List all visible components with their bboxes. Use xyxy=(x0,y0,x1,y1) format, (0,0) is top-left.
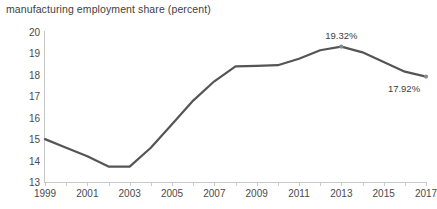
x-axis-tick xyxy=(45,182,46,186)
x-axis-tick xyxy=(341,182,342,186)
peak-value-label: 19.32% xyxy=(325,30,357,41)
x-axis-tick xyxy=(278,182,279,186)
x-axis-tick xyxy=(66,182,67,186)
x-axis-tick xyxy=(299,182,300,186)
y-axis-tick-label: 19 xyxy=(10,48,40,59)
y-axis-tick-label: 16 xyxy=(10,112,40,123)
x-axis-tick xyxy=(320,182,321,186)
end-marker xyxy=(424,74,428,78)
y-axis-tick-label: 18 xyxy=(10,69,40,80)
x-axis-tick-label: 2003 xyxy=(119,188,141,199)
x-axis-tick xyxy=(363,182,364,186)
y-axis-tick-label: 15 xyxy=(10,134,40,145)
x-axis-tick xyxy=(426,182,427,186)
y-axis-line xyxy=(44,31,45,183)
x-axis-tick xyxy=(214,182,215,186)
y-axis-tick-label: 14 xyxy=(10,155,40,166)
x-axis-tick xyxy=(257,182,258,186)
x-axis-tick-label: 2005 xyxy=(161,188,183,199)
x-axis-tick xyxy=(151,182,152,186)
y-axis-tick-labels: 1314151617181920 xyxy=(0,0,40,209)
x-axis-tick-label: 2011 xyxy=(288,188,310,199)
x-axis-tick xyxy=(172,182,173,186)
x-axis-tick-label: 2017 xyxy=(415,188,437,199)
peak-marker xyxy=(339,44,343,48)
x-axis-tick-label: 2001 xyxy=(76,188,98,199)
x-axis-tick-label: 2009 xyxy=(246,188,268,199)
x-axis-tick xyxy=(87,182,88,186)
x-axis-tick-label: 2007 xyxy=(203,188,225,199)
x-axis-tick-label: 1999 xyxy=(34,188,56,199)
y-axis-tick-label: 20 xyxy=(10,27,40,38)
end-value-label: 17.92% xyxy=(388,83,420,94)
x-axis-tick xyxy=(384,182,385,186)
x-axis-tick xyxy=(405,182,406,186)
x-axis-tick-label: 2015 xyxy=(373,188,395,199)
x-axis-tick xyxy=(130,182,131,186)
x-axis-tick xyxy=(109,182,110,186)
x-axis-tick xyxy=(236,182,237,186)
y-axis-tick-label: 17 xyxy=(10,91,40,102)
y-axis-tick-label: 13 xyxy=(10,177,40,188)
x-axis-tick xyxy=(193,182,194,186)
x-axis-tick-label: 2013 xyxy=(330,188,352,199)
